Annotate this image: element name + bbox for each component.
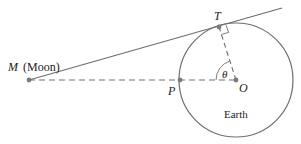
center-point (234, 78, 239, 83)
surface-point (178, 78, 183, 83)
earth-label: Earth (224, 108, 248, 120)
moon-letter: M (7, 60, 19, 74)
tangent-point (217, 25, 222, 30)
moon-point (27, 78, 32, 83)
surface-point-label: P (167, 84, 176, 98)
tangent-point-label: T (214, 9, 222, 23)
right-angle-marker (222, 25, 229, 34)
moon-name: (Moon) (23, 60, 60, 74)
center-label: O (239, 81, 248, 95)
theta-label: θ (222, 68, 228, 80)
moon-earth-tangent-diagram: M (Moon) T P O θ Earth (0, 0, 301, 144)
tangent-line (29, 8, 282, 80)
moon-label: M (Moon) (7, 60, 60, 74)
